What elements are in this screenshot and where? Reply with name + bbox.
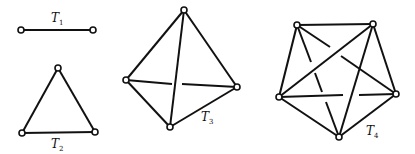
vertex: [234, 84, 240, 90]
vertex: [55, 65, 61, 71]
vertex: [19, 130, 25, 136]
vertex: [90, 27, 96, 33]
edge: [182, 84, 237, 87]
edge: [279, 97, 339, 137]
edge: [373, 24, 396, 94]
vertex: [294, 22, 300, 28]
graph-t2: T2: [19, 65, 98, 153]
edge: [297, 24, 373, 25]
graph-t1: T1: [18, 11, 96, 33]
edge: [315, 73, 322, 92]
edge: [126, 10, 184, 80]
vertex: [92, 129, 98, 135]
graph-label-t4: T4: [366, 124, 379, 140]
graph-label-t3: T3: [201, 110, 213, 126]
edge: [58, 68, 95, 132]
graph-t3: T3: [123, 7, 240, 130]
edge: [22, 68, 58, 133]
edge: [170, 10, 184, 127]
edge: [279, 24, 373, 97]
graph-label-t2: T2: [51, 137, 63, 153]
vertex: [167, 124, 173, 130]
vertex: [18, 27, 24, 33]
edge: [184, 10, 237, 87]
edge: [126, 80, 172, 84]
edge: [341, 56, 396, 94]
graph-figure: T1 T2 T3: [0, 0, 415, 154]
vertex: [276, 94, 282, 100]
vertex: [181, 7, 187, 13]
graph-label-t1: T1: [51, 11, 63, 27]
edge: [126, 80, 170, 127]
vertex: [393, 91, 399, 97]
edge: [279, 95, 343, 97]
vertex: [370, 21, 376, 27]
edge: [339, 24, 373, 137]
edge: [22, 132, 95, 133]
edge: [359, 94, 396, 95]
graph-t4: T4: [276, 21, 399, 140]
vertex: [336, 134, 342, 140]
vertex: [123, 77, 129, 83]
